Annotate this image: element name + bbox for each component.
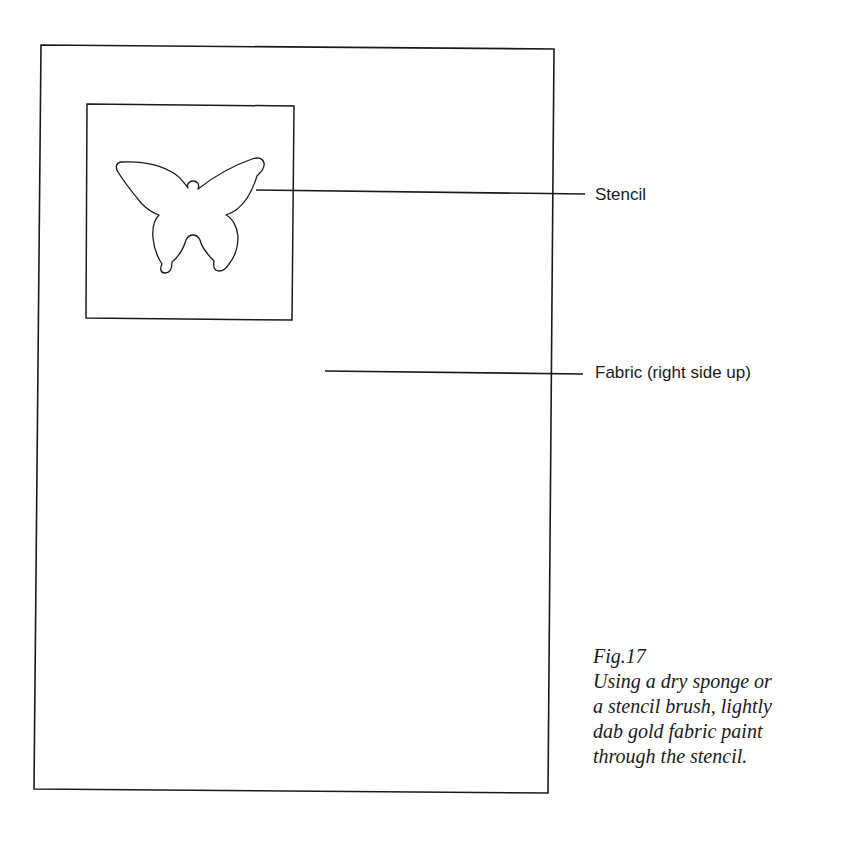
figure-number: Fig.17 — [593, 644, 772, 669]
stencil-leader-line — [256, 190, 585, 194]
fabric-leader-line — [325, 371, 583, 374]
caption-line: Using a dry sponge or — [593, 669, 772, 694]
butterfly-cutout-icon — [116, 158, 264, 273]
stencil-outline — [86, 104, 294, 320]
caption-line: a stencil brush, lightly — [593, 694, 772, 719]
stencil-label: Stencil — [595, 186, 646, 203]
fabric-label: Fabric (right side up) — [595, 364, 751, 381]
caption-line: dab gold fabric paint — [593, 719, 772, 744]
figure-caption: Fig.17 Using a dry sponge or a stencil b… — [593, 644, 772, 769]
caption-line: through the stencil. — [593, 744, 772, 769]
